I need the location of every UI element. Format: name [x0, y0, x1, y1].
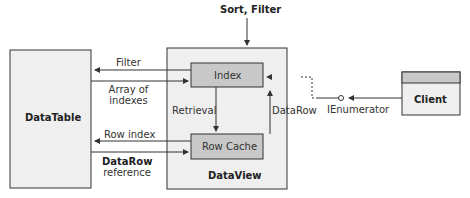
array-of-indexes-label: Array of indexes: [106, 84, 151, 106]
datatable-label: DataTable: [25, 112, 81, 123]
array-of-indexes-line2: indexes: [106, 95, 151, 106]
ienumerator-label: IEnumerator: [327, 104, 389, 115]
client-label: Client: [414, 94, 447, 105]
index-label: Index: [214, 70, 242, 81]
array-of-indexes-line1: Array of: [106, 84, 151, 95]
datarow-reference-line1: DataRow: [102, 156, 152, 167]
datarow-reference-line2: reference: [102, 167, 152, 178]
dataview-label: DataView: [208, 170, 262, 181]
diagram-canvas: [0, 0, 470, 198]
rowcache-label: Row Cache: [202, 141, 257, 152]
row-index-label: Row index: [104, 129, 155, 140]
datarow-label: DataRow: [272, 105, 317, 116]
datarow-reference-label: DataRow reference: [102, 156, 152, 178]
client-header: [402, 72, 460, 83]
ienumerator-lollipop: [339, 96, 344, 101]
filter-arrow-label: Filter: [116, 57, 141, 68]
retrieval-label: Retrieval: [172, 105, 216, 116]
sort-filter-label: Sort, Filter: [220, 4, 281, 15]
